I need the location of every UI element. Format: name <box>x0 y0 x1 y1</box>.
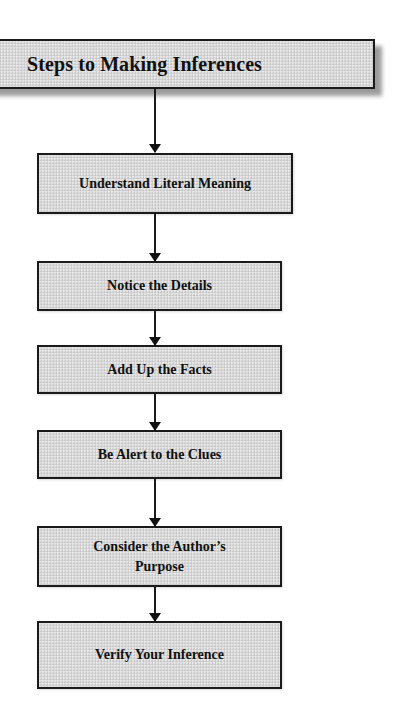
arrow-down-icon <box>154 89 156 152</box>
arrow-down-icon <box>154 311 156 345</box>
step-label: Consider the Author’s Purpose <box>39 537 280 577</box>
title-box: Steps to Making Inferences <box>0 39 375 89</box>
step-label: Notice the Details <box>93 276 226 296</box>
step-box-understand-literal-meaning: Understand Literal Meaning <box>37 153 293 214</box>
step-label: Be Alert to the Clues <box>84 445 236 465</box>
step-box-verify-your-inference: Verify Your Inference <box>37 621 282 689</box>
arrow-down-icon <box>154 587 156 621</box>
step-box-consider-the-authors-purpose: Consider the Author’s Purpose <box>37 526 282 587</box>
step-box-add-up-the-facts: Add Up the Facts <box>37 345 282 394</box>
arrow-down-icon <box>154 479 156 526</box>
step-box-be-alert-to-the-clues: Be Alert to the Clues <box>37 430 282 479</box>
arrow-down-icon <box>154 214 156 261</box>
arrow-down-icon <box>154 394 156 430</box>
step-box-notice-the-details: Notice the Details <box>37 261 282 311</box>
step-label: Understand Literal Meaning <box>65 174 265 194</box>
step-label: Add Up the Facts <box>93 360 226 380</box>
step-label: Verify Your Inference <box>81 645 238 665</box>
diagram-title: Steps to Making Inferences <box>27 53 262 76</box>
